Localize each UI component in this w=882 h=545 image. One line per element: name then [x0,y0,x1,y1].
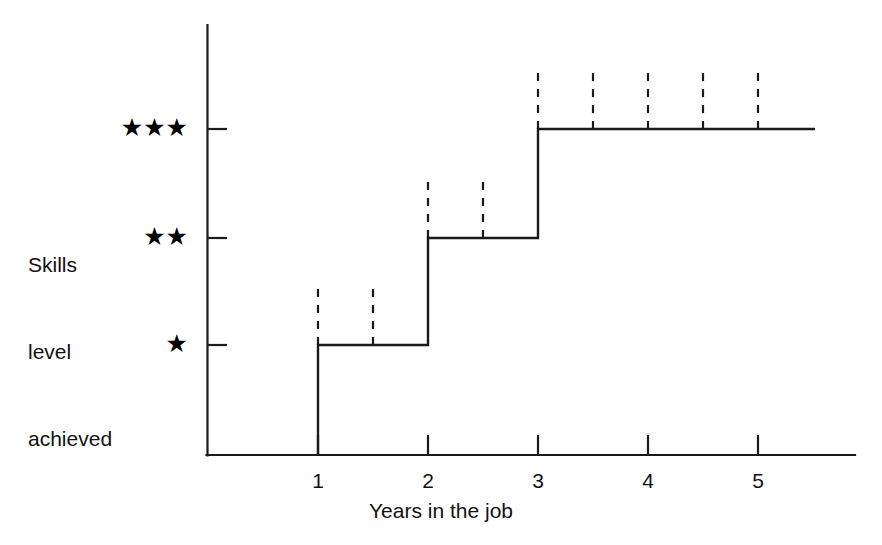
x-tick-label-4: 4 [628,470,668,491]
x-tick-label-3: 3 [518,470,558,491]
x-tick-label-2: 2 [408,470,448,491]
x-axis-title: Years in the job [0,500,882,521]
step-chart-plot [0,0,882,545]
x-tick-label-1: 1 [298,470,338,491]
y-axis-title-line-3: achieved [28,424,112,453]
y-axis-title-line-1: Skills [28,250,112,279]
y-tick-label-3-stars: ★★★ [60,115,188,140]
y-tick-label-2-stars: ★★ [60,224,188,249]
x-tick-label-5: 5 [738,470,778,491]
step-line-series [318,129,815,455]
chart-figure: Skills level achieved ★★★ ★★ ★ 1 2 3 4 5… [0,0,882,545]
y-tick-label-1-star: ★ [60,331,188,356]
